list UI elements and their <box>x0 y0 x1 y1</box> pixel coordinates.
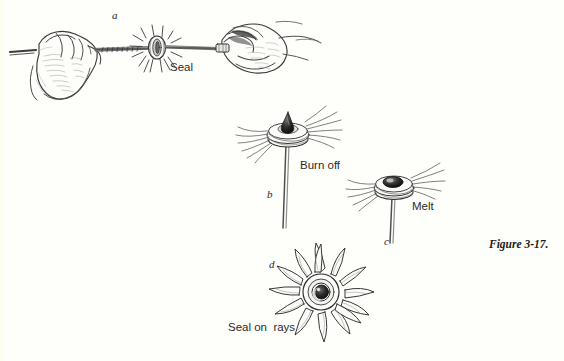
panel-a-illustration <box>10 21 321 100</box>
label-seal-on-rays: Seal on rays <box>228 322 295 334</box>
figure-page: Seal Burn off Melt Seal on rays a b c d … <box>0 0 564 361</box>
seal-bead-a <box>149 36 166 59</box>
panel-key-c: c <box>384 236 389 247</box>
rays-left-c <box>346 180 378 211</box>
label-seal: Seal <box>170 62 193 74</box>
figure-caption: Figure 3-17. <box>489 239 548 251</box>
burnoff-bead <box>267 112 309 147</box>
rod-collar <box>216 44 229 52</box>
panel-key-b: b <box>267 189 273 200</box>
rays-right-c <box>411 163 445 199</box>
left-hand <box>30 31 100 100</box>
label-burn-off: Burn off <box>300 160 340 172</box>
rays-left-b <box>236 127 272 163</box>
panel-key-a: a <box>112 10 118 21</box>
rays-right-b <box>305 106 342 148</box>
panel-key-d: d <box>269 259 275 270</box>
right-hand <box>216 21 321 73</box>
figure-artwork <box>0 0 564 361</box>
sunburst-center-seal <box>303 274 339 310</box>
melt-bead <box>374 176 414 200</box>
label-melt: Melt <box>412 201 434 213</box>
